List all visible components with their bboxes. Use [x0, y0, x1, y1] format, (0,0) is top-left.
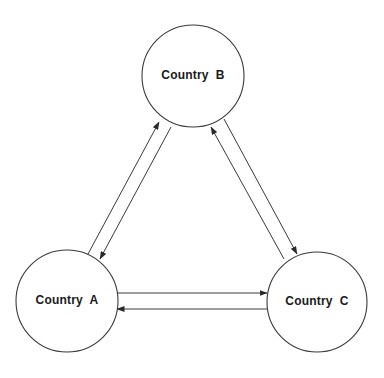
arrow-b-to-a — [100, 127, 171, 259]
country-c-label: Country C — [262, 294, 372, 308]
trade-flow-diagram — [0, 0, 384, 378]
arrow-c-to-b — [211, 127, 284, 259]
arrow-b-to-c — [224, 119, 297, 254]
country-a-label: Country A — [12, 293, 122, 307]
arrow-a-to-b — [88, 122, 159, 254]
country-b-label: Country B — [138, 68, 248, 82]
flow-arrows — [88, 119, 297, 309]
